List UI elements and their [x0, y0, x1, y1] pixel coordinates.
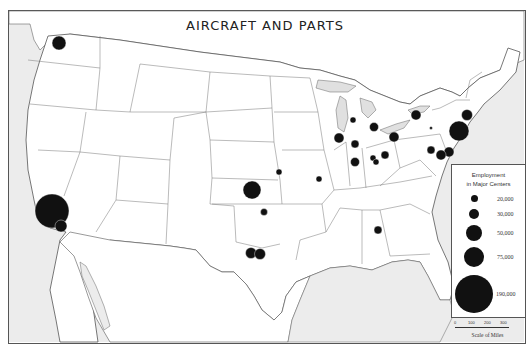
scale-label: Scale of Miles — [451, 332, 524, 338]
employment-center-marker — [276, 169, 282, 175]
employment-center-marker — [55, 220, 67, 232]
employment-center-marker — [427, 146, 435, 154]
employment-center-marker — [370, 123, 379, 132]
employment-center-marker — [389, 132, 399, 142]
scale-bar — [455, 327, 509, 328]
legend-value: 50,000 — [497, 230, 514, 236]
legend-dot-icon — [464, 247, 484, 267]
scale-tick-label: 200 — [484, 320, 491, 325]
legend-title-line2: in Major Centers — [452, 180, 525, 189]
legend-title: Employment in Major Centers — [452, 171, 525, 189]
scale-tick-label: 0 — [454, 320, 456, 325]
legend-value: 20,000 — [497, 196, 514, 202]
employment-center-marker — [449, 121, 469, 141]
employment-center-marker — [350, 117, 356, 123]
legend-title-line1: Employment — [452, 171, 525, 180]
employment-center-marker — [243, 181, 261, 199]
legend-value: 190,000 — [496, 291, 516, 297]
employment-center-marker — [373, 159, 379, 165]
employment-center-marker — [411, 110, 421, 120]
employment-center-marker — [374, 226, 382, 234]
legend-dot-icon — [471, 195, 478, 202]
employment-center-marker — [381, 151, 389, 159]
employment-center-marker — [261, 209, 268, 216]
employment-center-marker — [351, 158, 360, 167]
legend-value: 75,000 — [497, 254, 514, 260]
scale-tick-label: 100 — [468, 320, 475, 325]
employment-center-marker — [52, 36, 66, 50]
employment-center-marker — [351, 140, 359, 148]
employment-center-marker — [334, 133, 344, 143]
employment-center-marker — [436, 150, 446, 160]
scale-tick-label: 300 — [500, 320, 507, 325]
employment-center-marker — [462, 110, 473, 121]
employment-center-marker — [255, 249, 266, 260]
legend-dot-icon — [466, 225, 482, 241]
employment-center-marker — [316, 176, 322, 182]
legend-dot-icon — [455, 275, 493, 313]
map-title: AIRCRAFT AND PARTS — [0, 18, 530, 33]
legend-value: 30,000 — [497, 211, 514, 217]
legend: Employment in Major Centers 20,000 30,00… — [451, 164, 526, 318]
legend-dot-icon — [469, 209, 479, 219]
employment-center-marker — [430, 127, 433, 130]
scale-of-miles: 0 100 200 300 Scale of Miles — [451, 318, 524, 342]
